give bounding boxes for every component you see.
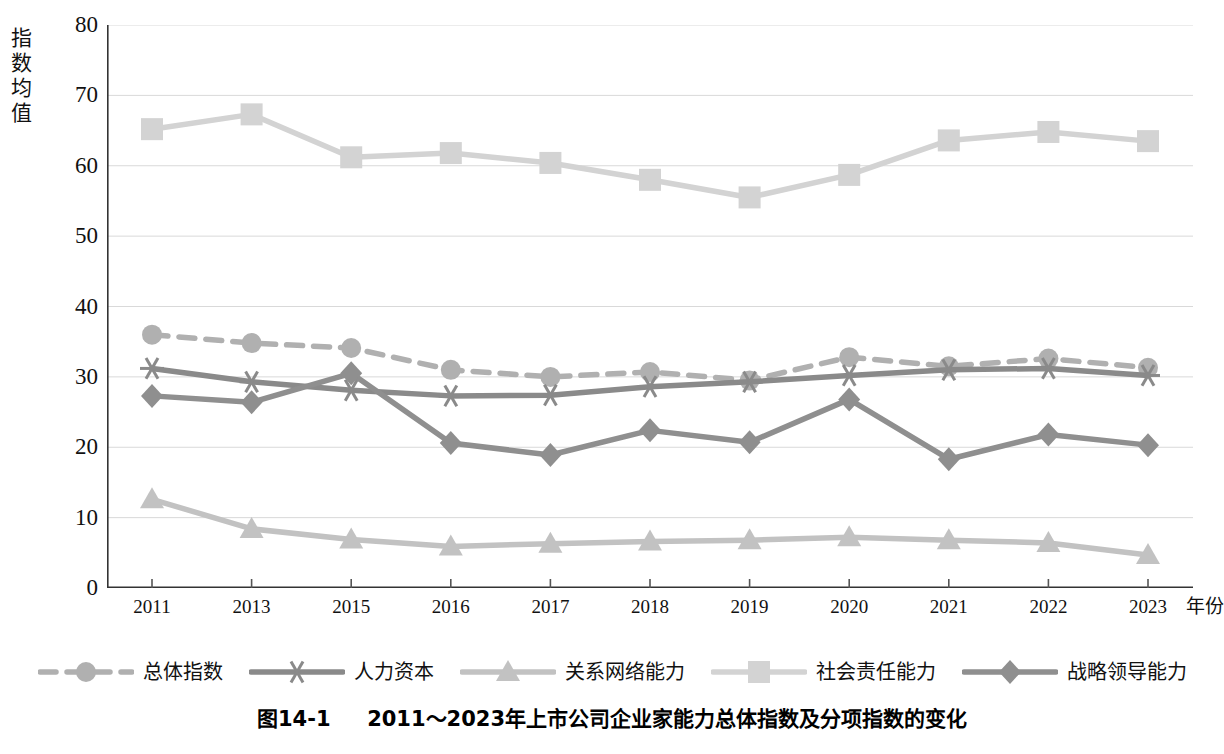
marker-diamond xyxy=(999,660,1021,684)
legend-label: 战略领导能力 xyxy=(1067,660,1187,684)
figure-number: 图14-1 xyxy=(257,707,331,731)
legend-swatch-square xyxy=(711,659,807,685)
caption-text: 2011～2023年上市公司企业家能力总体指数及分项指数的变化 xyxy=(367,707,967,731)
marker-diamond xyxy=(739,430,761,454)
legend-item-2[interactable]: 关系网络能力 xyxy=(460,659,685,685)
marker-triangle xyxy=(140,487,164,508)
legend-swatch-asterisk xyxy=(249,659,345,685)
marker-square xyxy=(639,169,661,191)
marker-square xyxy=(739,186,761,208)
legend-item-3[interactable]: 社会责任能力 xyxy=(711,659,936,685)
marker-diamond xyxy=(639,418,661,442)
x-axis-tick: 2013 xyxy=(233,596,271,618)
x-axis-tick: 2016 xyxy=(432,596,470,618)
y-axis-tick: 10 xyxy=(36,506,98,529)
plot-area xyxy=(107,25,1193,588)
marker-circle xyxy=(540,367,560,387)
figure-caption: 图14-1 2011～2023年上市公司企业家能力总体指数及分项指数的变化 xyxy=(0,706,1224,732)
marker-circle xyxy=(839,347,859,367)
marker-square xyxy=(1037,121,1059,143)
marker-circle xyxy=(341,338,361,358)
x-axis-tick: 2017 xyxy=(531,596,569,618)
series-square xyxy=(141,103,1159,208)
marker-square xyxy=(440,142,462,164)
marker-square xyxy=(938,129,960,151)
series-triangle xyxy=(140,487,1160,564)
legend-item-4[interactable]: 战略领导能力 xyxy=(962,659,1187,685)
marker-square xyxy=(748,661,770,683)
x-axis-tick: 2019 xyxy=(731,596,769,618)
legend-label: 总体指数 xyxy=(143,660,223,684)
marker-square xyxy=(838,164,860,186)
x-axis-tick: 2020 xyxy=(830,596,868,618)
marker-diamond xyxy=(838,387,860,411)
x-axis-tick: 2015 xyxy=(332,596,370,618)
series-circle xyxy=(142,325,1158,391)
marker-diamond xyxy=(241,390,263,414)
chart-legend: 总体指数人力资本关系网络能力社会责任能力战略领导能力 xyxy=(0,655,1224,689)
x-axis-tick: 2023 xyxy=(1129,596,1167,618)
legend-label: 关系网络能力 xyxy=(565,660,685,684)
marker-square xyxy=(1137,130,1159,152)
marker-diamond xyxy=(1037,423,1059,447)
x-axis-tick-labels: 2011201320152016201720182019202020212022… xyxy=(0,596,1224,630)
marker-circle xyxy=(242,333,262,353)
marker-diamond xyxy=(1137,433,1159,457)
marker-circle xyxy=(939,356,959,376)
y-axis-tick: 60 xyxy=(36,154,98,177)
marker-circle xyxy=(640,362,660,382)
y-axis-tick: 70 xyxy=(36,83,98,106)
marker-diamond xyxy=(938,447,960,471)
y-axis-tick: 50 xyxy=(36,224,98,247)
legend-swatch-diamond xyxy=(962,659,1058,685)
marker-square xyxy=(141,118,163,140)
y-axis-tick: 40 xyxy=(36,295,98,318)
marker-diamond xyxy=(141,384,163,408)
legend-label: 社会责任能力 xyxy=(816,660,936,684)
marker-square xyxy=(539,152,561,174)
marker-square xyxy=(241,103,263,125)
legend-item-0[interactable]: 总体指数 xyxy=(38,659,223,685)
x-axis-unit-label: 年份 xyxy=(1186,596,1224,618)
x-axis-tick: 2021 xyxy=(930,596,968,618)
y-axis-tick: 30 xyxy=(36,365,98,388)
marker-circle xyxy=(441,360,461,380)
legend-label: 人力资本 xyxy=(354,660,434,684)
x-axis-tick: 2011 xyxy=(133,596,170,618)
marker-circle xyxy=(76,662,96,682)
x-axis-tick: 2018 xyxy=(631,596,669,618)
marker-square xyxy=(340,146,362,168)
x-axis-tick: 2022 xyxy=(1029,596,1067,618)
y-axis-tick: 20 xyxy=(36,435,98,458)
legend-swatch-circle xyxy=(38,659,134,685)
y-axis-tick: 80 xyxy=(36,13,98,36)
legend-swatch-triangle xyxy=(460,659,556,685)
legend-item-1[interactable]: 人力资本 xyxy=(249,659,434,685)
chart-figure: 指数均值 80706050403020100 20112013201520162… xyxy=(0,0,1224,754)
marker-circle xyxy=(142,325,162,345)
chart-canvas xyxy=(107,25,1193,588)
marker-diamond xyxy=(539,443,561,467)
y-axis-tick-labels: 80706050403020100 xyxy=(22,0,98,600)
